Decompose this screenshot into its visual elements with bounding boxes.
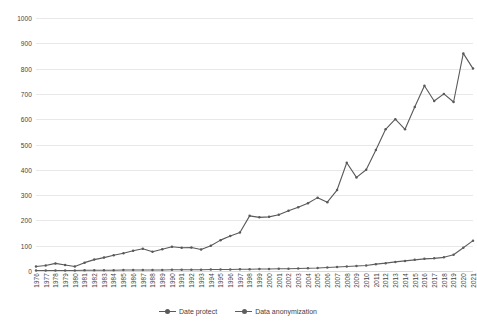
data-point [171, 245, 174, 248]
legend-marker-icon [235, 307, 252, 315]
data-point [287, 210, 290, 213]
legend-item-2[interactable]: Data anonymization [235, 307, 317, 315]
data-point [316, 196, 319, 199]
x-tick-label: 1976 [33, 273, 40, 288]
y-tick-label: 500 [21, 141, 32, 148]
data-point [112, 269, 115, 272]
x-tick-label: 2003 [295, 273, 302, 288]
data-point [103, 256, 106, 259]
x-tick-label: 1987 [140, 273, 147, 288]
data-point [103, 269, 106, 272]
data-point [161, 248, 164, 251]
y-tick-label: 1000 [17, 15, 32, 22]
data-point [423, 258, 426, 261]
data-point [287, 267, 290, 270]
data-point [355, 265, 358, 268]
data-point [413, 259, 416, 262]
data-point [355, 176, 358, 179]
data-point [44, 264, 47, 267]
data-point [278, 214, 281, 217]
x-tick-label: 1995 [217, 273, 224, 288]
series-1 [35, 52, 475, 268]
data-point [297, 267, 300, 270]
data-point [239, 231, 242, 234]
y-tick-label: 200 [21, 217, 32, 224]
data-point [384, 128, 387, 131]
x-tick-label: 1998 [246, 273, 253, 288]
data-point [433, 257, 436, 260]
x-tick-label: 1981 [81, 273, 88, 288]
x-tick-label: 2005 [314, 273, 321, 288]
data-point [346, 265, 349, 268]
data-point [112, 254, 115, 257]
x-tick-label: 1992 [188, 273, 195, 288]
data-point [268, 268, 271, 271]
data-point [394, 118, 397, 121]
x-tick-label: 1993 [198, 273, 205, 288]
data-point [452, 101, 455, 104]
data-point [54, 269, 57, 272]
data-point [326, 201, 329, 204]
legend-label: Date protect [179, 308, 217, 315]
data-point [219, 268, 222, 271]
data-point [268, 216, 271, 219]
series-layer [36, 18, 473, 271]
x-tick-label: 2011 [373, 273, 380, 287]
data-point [35, 269, 38, 272]
data-point [326, 266, 329, 269]
data-point [122, 252, 125, 255]
x-tick-label: 2018 [441, 273, 448, 288]
data-point [200, 268, 203, 271]
data-point [472, 239, 475, 242]
y-tick-label: 900 [21, 40, 32, 47]
x-tick-label: 2001 [276, 273, 283, 288]
x-tick-label: 1977 [43, 273, 50, 288]
data-point [462, 52, 465, 55]
data-point [239, 268, 242, 271]
data-point [180, 246, 183, 249]
data-point [433, 100, 436, 103]
legend-item-1[interactable]: Date protect [159, 307, 217, 315]
y-tick-label: 100 [21, 242, 32, 249]
x-tick-label: 1989 [159, 273, 166, 288]
data-point [365, 264, 368, 267]
x-tick-label: 2000 [266, 273, 273, 288]
y-tick-label: 400 [21, 166, 32, 173]
x-tick-label: 2009 [353, 273, 360, 288]
y-tick-label: 700 [21, 90, 32, 97]
x-axis: 1976197719781979198019811982198319841985… [36, 273, 473, 305]
x-tick-label: 2007 [334, 273, 341, 288]
x-tick-label: 2019 [450, 273, 457, 288]
data-point [35, 265, 38, 268]
data-point [54, 262, 57, 265]
x-tick-label: 2017 [431, 273, 438, 288]
x-tick-label: 1990 [169, 273, 176, 288]
data-point [44, 269, 47, 272]
x-tick-label: 2020 [460, 273, 467, 288]
data-point [190, 246, 193, 249]
series-2 [35, 239, 475, 271]
x-tick-label: 2012 [382, 273, 389, 288]
y-tick-label: 800 [21, 65, 32, 72]
data-point [365, 169, 368, 172]
legend-label: Data anonymization [255, 308, 317, 315]
data-point [219, 239, 222, 242]
data-point [336, 189, 339, 192]
x-tick-label: 2016 [421, 273, 428, 288]
data-point [132, 269, 135, 272]
x-tick-label: 1988 [149, 273, 156, 288]
data-point [413, 106, 416, 109]
data-point [142, 269, 145, 272]
x-tick-label: 1997 [237, 273, 244, 288]
data-point [462, 246, 465, 249]
data-point [161, 269, 164, 272]
data-point [83, 261, 86, 264]
data-point [180, 268, 183, 271]
data-point [316, 267, 319, 270]
x-tick-label: 2014 [402, 273, 409, 288]
data-point [384, 262, 387, 265]
x-tick-label: 1985 [120, 273, 127, 288]
data-point [83, 269, 86, 272]
data-point [200, 248, 203, 251]
